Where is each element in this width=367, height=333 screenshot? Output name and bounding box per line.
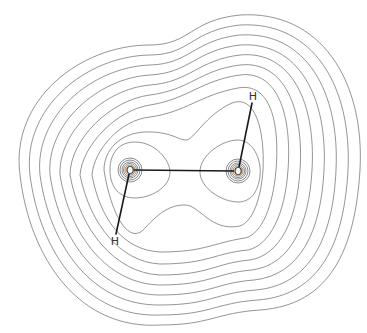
- atom-label-o2: O: [234, 165, 243, 178]
- atom-label-h2: H: [249, 90, 257, 103]
- electron-density-contour-map: O O H H: [0, 0, 367, 333]
- covalent-bond-o2-h2: [239, 103, 252, 167]
- hydrogen-bond-o1-o2: [134, 170, 234, 171]
- atom-label-h1: H: [111, 235, 119, 248]
- atom-label-o1: O: [126, 164, 135, 177]
- atom-labels: O O H H: [111, 90, 257, 248]
